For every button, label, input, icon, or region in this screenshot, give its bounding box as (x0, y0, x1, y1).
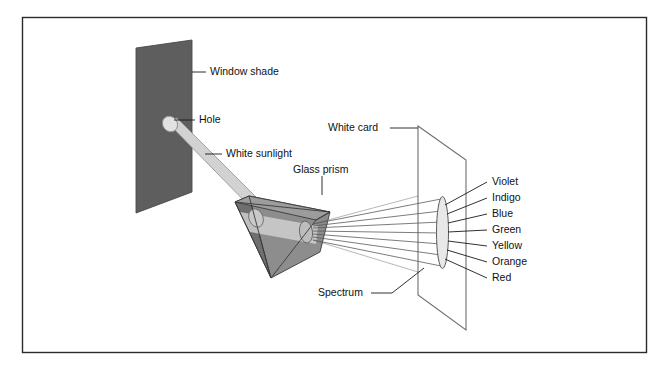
spectrum-label-indigo: Indigo (492, 191, 521, 203)
spectrum-band (437, 197, 449, 269)
prism-dispersion-figure: Window shade Hole White sunlight Glass p… (0, 0, 667, 369)
spectrum-label-violet: Violet (492, 175, 518, 187)
label-hole: Hole (199, 113, 221, 125)
spectrum-label-green: Green (492, 223, 521, 235)
label-spectrum: Spectrum (318, 286, 363, 298)
spectrum-label-red: Red (492, 271, 511, 283)
spectrum-label-yellow: Yellow (492, 239, 522, 251)
label-glass-prism: Glass prism (293, 163, 349, 175)
label-window-shade: Window shade (210, 65, 279, 77)
label-white-sunlight: White sunlight (226, 147, 292, 159)
label-white-card: White card (328, 121, 378, 133)
diagram-canvas: Window shade Hole White sunlight Glass p… (0, 0, 667, 369)
spectrum-label-orange: Orange (492, 255, 527, 267)
figure-border (23, 18, 647, 353)
spectrum-label-blue: Blue (492, 207, 513, 219)
